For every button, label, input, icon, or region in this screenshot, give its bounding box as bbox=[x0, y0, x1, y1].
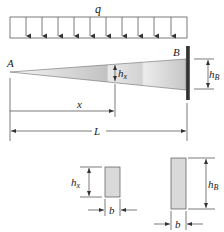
cross-section-b: hB b bbox=[154, 158, 219, 230]
load-box bbox=[10, 17, 187, 38]
section-x-rect bbox=[105, 167, 120, 197]
fixed-wall bbox=[186, 46, 190, 100]
section-b-width-label: b bbox=[175, 218, 181, 230]
section-b-rect bbox=[171, 158, 186, 209]
x-label: x bbox=[76, 98, 82, 110]
hb-dimension: hB bbox=[194, 59, 220, 89]
end-b-label: B bbox=[173, 46, 180, 58]
section-hx-label: hx bbox=[71, 176, 81, 190]
distributed-load: q bbox=[10, 2, 187, 38]
length-label: L bbox=[93, 125, 100, 137]
tapered-beam-diagram: q A B hx hB x L hx b bbox=[0, 0, 224, 232]
end-a-label: A bbox=[6, 57, 14, 69]
section-x-width-label: b bbox=[109, 204, 115, 216]
hb-label: hB bbox=[209, 68, 220, 82]
x-dimension: x bbox=[10, 98, 114, 111]
l-dimension: L bbox=[11, 125, 186, 137]
cross-section-x: hx b bbox=[71, 167, 137, 216]
load-label: q bbox=[95, 2, 101, 16]
load-arrows bbox=[26, 17, 171, 36]
tapered-beam bbox=[10, 59, 186, 90]
section-hb-label: hB bbox=[208, 178, 219, 192]
